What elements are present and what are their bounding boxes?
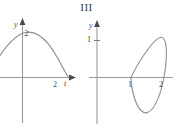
right-plot-y-axis-arrow (94, 20, 100, 27)
math-figure-III: III y (0, 0, 173, 126)
left-plot-x-axis-arrow (69, 75, 76, 81)
right-plot-x-tick-label-2: 2 (159, 81, 163, 89)
left-plot-solution-arc (0, 32, 69, 77)
left-plot-x-axis-label: t (64, 80, 66, 88)
right-plot-curve (131, 37, 166, 113)
left-plot-y-tick-label-2: 2 (25, 30, 29, 38)
left-plot-y-axis-label: y (14, 21, 18, 29)
left-plot-y-axis-arrow (20, 18, 26, 25)
left-plot-x-tick-label-2: 2 (53, 81, 57, 89)
right-plot-x-tick-label-1: 1 (128, 81, 132, 89)
left-plot-curve (0, 32, 69, 77)
right-plot-y-axis-label: y (89, 22, 93, 30)
right-plot-closed-orbit (131, 37, 166, 113)
right-plot-axes (89, 20, 173, 124)
right-plot-y-tick-label-1: 1 (87, 36, 91, 44)
figure-canvas (0, 0, 173, 126)
